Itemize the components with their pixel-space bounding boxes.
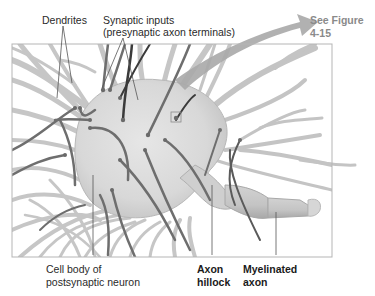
label-see-figure: See Figure: [310, 14, 364, 26]
label-dendrites: Dendrites: [42, 14, 87, 26]
label-synaptic-inputs: Synaptic inputs: [103, 14, 174, 26]
neuron-illustration: [0, 0, 375, 296]
label-figure-number: 4-15: [310, 27, 331, 39]
label-myelinated: Myelinated: [243, 263, 297, 275]
label-hillock: hillock: [197, 276, 230, 288]
axon: [180, 165, 321, 218]
label-cell-body: Cell body of: [46, 263, 101, 275]
label-postsynaptic-neuron: postsynaptic neuron: [46, 276, 140, 288]
neuron-diagram: Dendrites Synaptic inputs (presynaptic a…: [0, 0, 375, 296]
label-presynaptic-terminals: (presynaptic axon terminals): [103, 26, 235, 38]
label-axon: Axon: [197, 263, 223, 275]
label-myelinated-axon: axon: [243, 276, 268, 288]
